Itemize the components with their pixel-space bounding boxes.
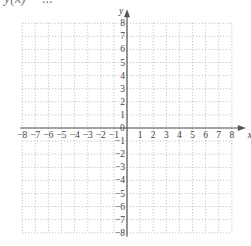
- x-tick-label: 2: [151, 130, 156, 140]
- x-tick-label: −8: [17, 130, 27, 140]
- y-tick-label: 6: [120, 44, 125, 54]
- y-tick-label: 2: [120, 97, 125, 107]
- x-tick-label: 4: [177, 130, 182, 140]
- y-tick-label: 5: [120, 58, 125, 68]
- x-tick-label: 5: [190, 130, 195, 140]
- x-tick-label: −4: [70, 130, 80, 140]
- axes: [20, 9, 246, 237]
- y-tick-label: 8: [120, 18, 125, 28]
- x-tick-label: −7: [30, 130, 40, 140]
- coordinate-grid: xy0−8−7−6−5−4−3−2−11234567887654321−1−2−…: [0, 0, 251, 246]
- y-tick-label: −7: [115, 215, 125, 225]
- x-tick-label: −2: [96, 130, 106, 140]
- y-tick-label: −8: [115, 228, 125, 238]
- y-tick-label: −4: [115, 175, 125, 185]
- y-tick-label: −2: [115, 149, 125, 159]
- y-tick-label: 3: [120, 84, 125, 94]
- origin-label: 0: [120, 123, 125, 133]
- x-tick-label: 8: [229, 130, 234, 140]
- tick-labels: xy0−8−7−6−5−4−3−2−11234567887654321−1−2−…: [17, 6, 251, 238]
- y-axis-arrow-icon: [124, 9, 130, 17]
- x-tick-label: 3: [164, 130, 169, 140]
- y-tick-label: −6: [115, 202, 125, 212]
- x-axis-arrow-icon: [238, 125, 246, 131]
- x-tick-label: 1: [138, 130, 143, 140]
- y-tick-label: 1: [120, 110, 125, 120]
- x-tick-label: −5: [56, 130, 66, 140]
- x-tick-label: −6: [43, 130, 53, 140]
- y-tick-label: −1: [115, 136, 125, 146]
- x-axis-label: x: [247, 130, 251, 140]
- x-tick-label: 6: [203, 130, 208, 140]
- x-tick-label: 7: [216, 130, 221, 140]
- x-tick-label: −3: [83, 130, 93, 140]
- y-axis-label: y: [118, 6, 124, 16]
- y-tick-label: 7: [120, 31, 125, 41]
- y-tick-label: 4: [120, 71, 125, 81]
- y-tick-label: −3: [115, 162, 125, 172]
- y-tick-label: −5: [115, 189, 125, 199]
